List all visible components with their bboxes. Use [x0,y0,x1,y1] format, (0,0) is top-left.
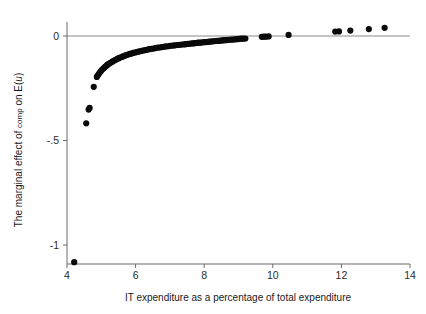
y-tick-label: -1 [50,239,59,251]
data-point [382,25,388,31]
data-point [266,33,272,39]
data-point [242,35,248,41]
data-point [347,27,353,33]
x-tick-label: 4 [64,269,70,281]
x-tick-label: 14 [404,269,416,281]
y-title-variable: comp [15,108,24,128]
scatter-plot: 0-.5-1 468101214 IT expenditure as a per… [0,0,426,314]
data-point [285,32,291,38]
data-point [366,26,372,32]
data-point [83,120,89,126]
x-tick-label: 6 [133,269,139,281]
data-point [87,105,93,111]
y-tick-label: -.5 [47,134,59,146]
x-tick-label: 10 [267,269,279,281]
y-title-prefix: The marginal effect of [13,128,24,227]
y-axis-title: The marginal effect of comp on E(u) [13,73,24,227]
svg-text:The marginal effect of comp on: The marginal effect of comp on E(u) [13,73,24,227]
data-point [91,84,97,90]
data-point [336,28,342,34]
chart-figure: 0-.5-1 468101214 IT expenditure as a per… [0,0,426,314]
x-axis-ticks: 468101214 [64,264,416,281]
x-tick-label: 8 [201,269,207,281]
data-point [71,259,77,265]
y-title-suffix: ) [13,73,24,76]
data-point-group [71,25,388,265]
y-tick-label: 0 [53,30,59,42]
y-axis-ticks: 0-.5-1 [47,30,67,251]
y-title-middle: on E( [13,81,24,108]
x-axis-title: IT expenditure as a percentage of total … [125,292,352,303]
x-tick-label: 12 [336,269,348,281]
